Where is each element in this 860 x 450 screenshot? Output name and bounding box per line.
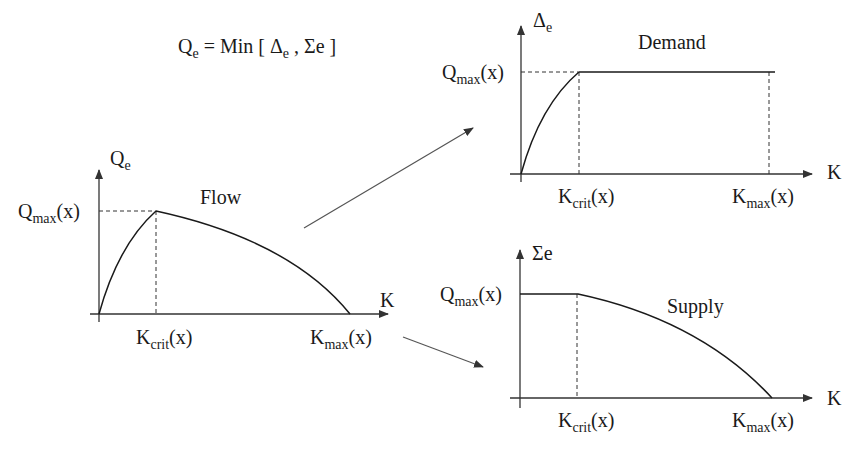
flow-x-axis-label: K <box>380 290 394 310</box>
flow-kmax-tick: Kmax(x) <box>310 327 372 347</box>
supply-panel <box>510 250 812 408</box>
demand-y-axis-label: Δe <box>533 10 552 30</box>
demand-x-axis-label: K <box>827 162 841 182</box>
formula-delta: Δ <box>270 35 283 57</box>
formula: Qe = Min [ Δe , Σe ] <box>178 36 336 56</box>
flow-curve <box>99 211 350 314</box>
arrow-to-demand <box>304 128 473 228</box>
formula-delta-sub: e <box>283 46 289 61</box>
formula-sep: , <box>289 35 304 57</box>
demand-kcrit-tick: Kcrit(x) <box>558 186 614 206</box>
supply-kcrit-tick: Kcrit(x) <box>558 410 614 430</box>
demand-qmax-tick: Qmax(x) <box>442 62 504 82</box>
diagram-canvas <box>0 0 860 450</box>
arrow-to-supply <box>403 337 483 367</box>
supply-y-axis-label: Σe <box>532 243 553 263</box>
flow-qmax-tick: Qmax(x) <box>18 201 80 221</box>
demand-curve <box>521 72 775 174</box>
formula-lhs-sub: e <box>192 46 198 61</box>
supply-x-axis-label: K <box>827 388 841 408</box>
flow-title: Flow <box>200 187 241 207</box>
formula-sigma: Σe <box>304 35 325 57</box>
flow-kcrit-tick: Kcrit(x) <box>136 327 192 347</box>
formula-close: ] <box>325 35 337 57</box>
supply-kmax-tick: Kmax(x) <box>732 410 794 430</box>
formula-lhs: Q <box>178 35 192 57</box>
demand-kmax-tick: Kmax(x) <box>732 186 794 206</box>
supply-title: Supply <box>667 296 724 316</box>
formula-eq: = Min [ <box>199 35 270 57</box>
flow-y-axis-label: Qe <box>110 148 131 168</box>
supply-qmax-tick: Qmax(x) <box>440 284 502 304</box>
supply-curve <box>520 294 772 398</box>
demand-title: Demand <box>638 32 706 52</box>
